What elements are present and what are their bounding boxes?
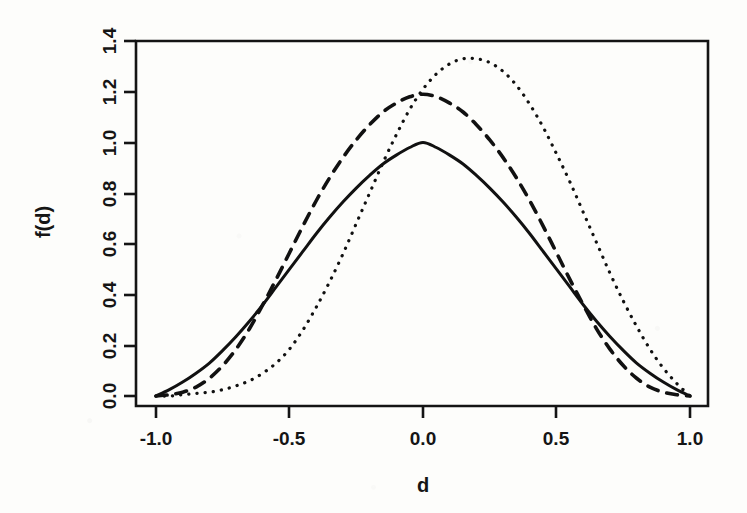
y-tick-label: 1.4 (99, 27, 120, 54)
y-axis-ticks (124, 41, 136, 396)
y-tick-label: 0.2 (99, 333, 120, 359)
curve-dashed (156, 94, 690, 396)
curve-dotted (156, 58, 690, 396)
y-axis-title: f(d) (32, 206, 54, 238)
y-tick-label: 1.0 (99, 130, 120, 156)
y-axis-tick-labels: 1.4 1.2 1.0 0.8 0.6 0.4 0.2 0.0 (99, 27, 120, 409)
data-curves (156, 58, 690, 396)
y-tick-label: 1.2 (99, 79, 120, 105)
x-tick-label: 0.5 (543, 428, 570, 449)
x-axis-ticks (156, 406, 690, 418)
x-axis-title: d (417, 474, 429, 496)
plot-area: 1.4 1.2 1.0 0.8 0.6 0.4 0.2 0.0 f(d) -1.… (0, 0, 747, 513)
x-axis-tick-labels: -1.0 -0.5 0.0 0.5 1.0 (140, 428, 704, 449)
curve-solid (156, 142, 690, 396)
x-tick-label: -1.0 (140, 428, 173, 449)
y-tick-label: 0.4 (99, 281, 120, 308)
figure-canvas: 1.4 1.2 1.0 0.8 0.6 0.4 0.2 0.0 f(d) -1.… (0, 0, 747, 513)
y-tick-label: 0.6 (99, 231, 120, 257)
x-tick-label: 0.0 (410, 428, 436, 449)
y-tick-label: 0.0 (99, 383, 120, 409)
y-tick-label: 0.8 (99, 181, 120, 207)
x-tick-label: -0.5 (273, 428, 306, 449)
x-tick-label: 1.0 (677, 428, 703, 449)
